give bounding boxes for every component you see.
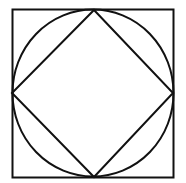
inscribed-circle xyxy=(13,10,174,177)
geometry-diagram xyxy=(0,0,186,183)
